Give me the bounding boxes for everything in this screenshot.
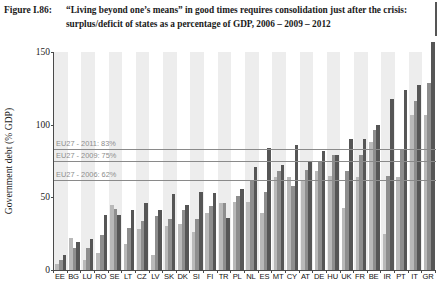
bar-sk-2012[interactable]	[172, 194, 176, 270]
bar-nl-2012[interactable]	[254, 167, 258, 270]
bar-cy-2012[interactable]	[295, 145, 299, 270]
bar-fi-2012[interactable]	[213, 193, 217, 270]
bar-at-2012[interactable]	[308, 162, 312, 270]
annotation-label-eu27-2009: EU27 - 2009: 75%	[56, 151, 116, 161]
bar-lt-2012[interactable]	[131, 210, 135, 270]
x-label-fr: FR	[353, 272, 367, 281]
annotation-label-eu27-2006: EU27 - 2006: 62%	[56, 170, 116, 180]
bar-pl-2012[interactable]	[240, 189, 244, 270]
x-label-at: AT	[299, 272, 313, 281]
figure-number: Figure I.86:	[0, 4, 66, 31]
x-label-gr: GR	[421, 272, 435, 281]
bar-ro-2012[interactable]	[104, 215, 108, 270]
x-label-lu: LU	[80, 272, 94, 281]
annotation-label-eu27-2011: EU27 - 2011: 83%	[56, 139, 116, 149]
x-label-ro: RO	[94, 272, 108, 281]
y-tick-label-150: 150	[36, 47, 50, 57]
figure-title-line2: surplus/deficit of states as a percentag…	[66, 18, 433, 32]
bar-cz-2012[interactable]	[144, 203, 148, 270]
x-label-lv: LV	[148, 272, 162, 281]
x-label-si: SI	[189, 272, 203, 281]
x-label-uk: UK	[339, 272, 353, 281]
x-label-be: BE	[367, 272, 381, 281]
x-axis-labels: EEBGLUROSELTCZLVSKDKSIFITRPLNLESMTCYATDE…	[53, 272, 435, 281]
bar-uk-2012[interactable]	[349, 139, 353, 270]
bar-gr-2012[interactable]	[431, 42, 435, 270]
x-label-es: ES	[258, 272, 272, 281]
bar-se-2012[interactable]	[117, 215, 121, 270]
figure-title: “Living beyond one’s means” in good time…	[66, 4, 439, 31]
x-label-fi: FI	[203, 272, 217, 281]
x-label-pt: PT	[394, 272, 408, 281]
x-label-de: DE	[312, 272, 326, 281]
figure-caption: Figure I.86: “Living beyond one’s means”…	[0, 4, 439, 31]
figure-title-line1: “Living beyond one’s means” in good time…	[66, 5, 407, 15]
x-label-bg: BG	[67, 272, 81, 281]
y-tick-label-0: 0	[45, 265, 50, 275]
bar-fr-2012[interactable]	[363, 139, 367, 270]
x-label-se: SE	[108, 272, 122, 281]
x-tick-end	[435, 270, 436, 273]
x-label-it: IT	[408, 272, 422, 281]
bar-tr-2012[interactable]	[226, 218, 230, 270]
x-label-dk: DK	[176, 272, 190, 281]
chart-plot-area: EU27 - 2011: 83%EU27 - 2009: 75%EU27 - 2…	[53, 52, 436, 271]
x-label-hu: HU	[326, 272, 340, 281]
x-label-ee: EE	[53, 272, 67, 281]
bar-dk-2012[interactable]	[185, 205, 189, 270]
bar-lv-2012[interactable]	[158, 210, 162, 270]
y-axis-title: Government debt (% GDP)	[4, 52, 14, 270]
bar-es-2012[interactable]	[267, 148, 271, 270]
x-label-mt: MT	[271, 272, 285, 281]
bar-mt-2012[interactable]	[281, 165, 285, 270]
y-tick-mark-150	[51, 52, 54, 53]
y-tick-mark-100	[51, 125, 54, 126]
x-label-tr: TR	[217, 272, 231, 281]
bar-be-2012[interactable]	[376, 125, 380, 270]
x-label-lt: LT	[121, 272, 135, 281]
bar-ee-2012[interactable]	[63, 255, 67, 270]
annotation-line-eu27-2006	[54, 180, 436, 181]
y-tick-label-50: 50	[41, 192, 51, 202]
x-label-ir: IR	[380, 272, 394, 281]
y-tick-label-100: 100	[36, 120, 50, 130]
bar-it-2012[interactable]	[417, 85, 421, 270]
caption-edge-rule	[435, 2, 437, 36]
x-label-cz: CZ	[135, 272, 149, 281]
bar-bg-2012[interactable]	[76, 242, 80, 270]
bar-si-2012[interactable]	[199, 192, 203, 270]
bar-de-2012[interactable]	[322, 151, 326, 270]
bar-ir-2012[interactable]	[390, 99, 394, 270]
bar-hu-2012[interactable]	[335, 155, 339, 270]
annotation-line-eu27-2009	[54, 161, 436, 162]
y-tick-mark-50	[51, 197, 54, 198]
x-label-nl: NL	[244, 272, 258, 281]
x-label-cy: CY	[285, 272, 299, 281]
figure-container: Figure I.86: “Living beyond one’s means”…	[0, 0, 439, 299]
bar-lu-2012[interactable]	[90, 239, 94, 270]
x-label-pl: PL	[230, 272, 244, 281]
x-label-sk: SK	[162, 272, 176, 281]
